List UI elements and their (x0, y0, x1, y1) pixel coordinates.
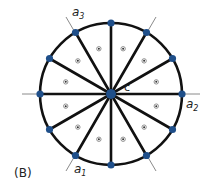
sector-marker (97, 47, 101, 51)
sector-marker (64, 104, 68, 108)
vertex-dot (178, 90, 185, 97)
sector-marker (142, 125, 146, 129)
vertex-dot (169, 126, 176, 133)
vertex-dot (72, 29, 79, 36)
vertex-dot (107, 161, 114, 168)
sector-marker (76, 125, 80, 129)
vertex-dot (72, 152, 79, 159)
axis-label-a1: a1 (74, 162, 86, 178)
sector-marker (76, 59, 80, 63)
sector-marker (154, 80, 158, 84)
vertex-dot (46, 55, 53, 62)
sector-marker (97, 137, 101, 141)
sector-marker (64, 80, 68, 84)
axis-label-a3: a3 (72, 5, 84, 21)
sector-marker (121, 47, 125, 51)
dihedral-symmetry-diagram: c a3 a2 a1 (B) (0, 0, 214, 189)
vertex-dot (107, 19, 114, 26)
vertex-dot (169, 55, 176, 62)
sector-marker (121, 137, 125, 141)
vertex-dot (143, 29, 150, 36)
vertex-dot (143, 152, 150, 159)
vertex-dot (36, 90, 43, 97)
panel-label: (B) (14, 166, 32, 180)
vertex-dot (46, 126, 53, 133)
sector-marker (142, 59, 146, 63)
axis-label-a2: a2 (186, 97, 198, 113)
sector-marker (154, 104, 158, 108)
center-label: c (124, 81, 130, 94)
center-point (106, 89, 116, 99)
